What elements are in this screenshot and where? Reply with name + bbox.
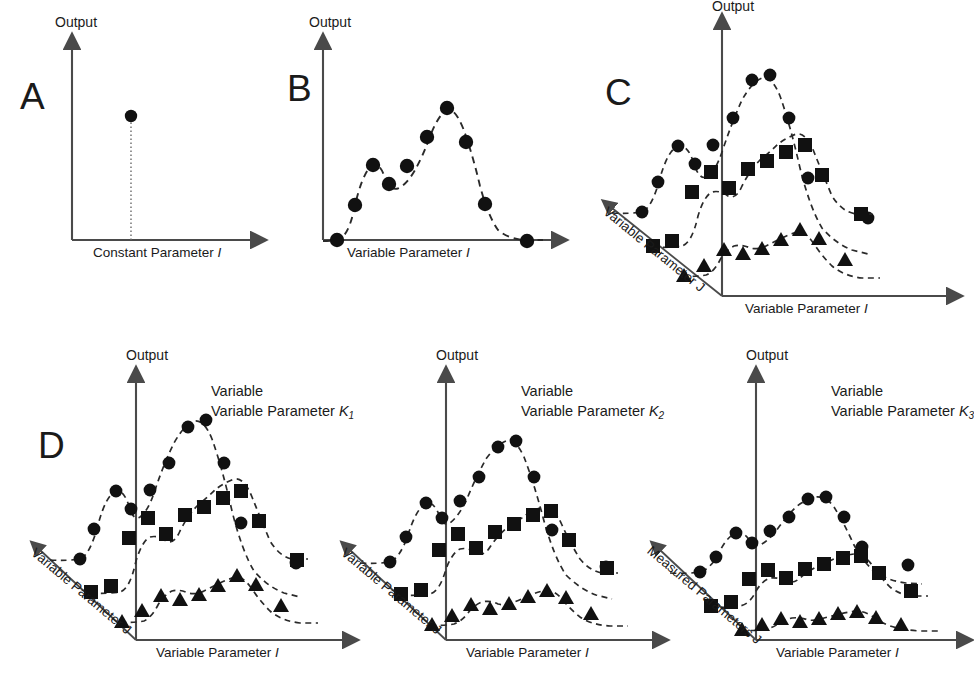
panel-letter-d: D bbox=[38, 427, 65, 464]
series-label-k1-line2: Variable Parameter K1 bbox=[211, 403, 354, 419]
y-axis-label: Output bbox=[436, 347, 478, 365]
panel-c: Output Variable Parameter I Variable Par… bbox=[600, 0, 974, 335]
x-axis-label: Variable Parameter I bbox=[466, 645, 589, 662]
series-markers-circle bbox=[636, 69, 875, 225]
panel-a: Output Constant Parameter I A bbox=[0, 0, 300, 330]
series-label-k2-text: Variable Parameter K bbox=[521, 403, 659, 419]
x-axis-label: Variable Parameter I bbox=[347, 245, 470, 262]
x-axis-label: Variable Parameter I bbox=[156, 645, 279, 662]
series-markers-square bbox=[394, 504, 614, 601]
series-line-circle bbox=[360, 441, 612, 599]
series-markers bbox=[330, 101, 534, 248]
series-markers-triangle bbox=[114, 568, 289, 628]
panel-d1: Output Variable Parameter I Variable Par… bbox=[28, 345, 358, 679]
series-label-k1: Variable Variable Parameter K1 bbox=[211, 382, 354, 421]
panel-d3: Output Variable Parameter I Measured Par… bbox=[648, 345, 974, 679]
series-label-k3-text: Variable Parameter K bbox=[831, 403, 969, 419]
series-label-k2-line1: Variable bbox=[521, 383, 573, 399]
series-markers-circle bbox=[74, 414, 303, 570]
y-axis-label: Output bbox=[126, 347, 168, 365]
y-axis-label: Output bbox=[712, 0, 754, 16]
series-label-k1-text: Variable Parameter K bbox=[211, 403, 349, 419]
series-markers-triangle bbox=[676, 222, 853, 282]
series-line-circle bbox=[612, 78, 868, 254]
data-point-circle bbox=[125, 110, 137, 122]
series-line bbox=[323, 110, 543, 241]
series-markers-square bbox=[704, 549, 918, 613]
series-label-k2-line2: Variable Parameter K2 bbox=[521, 403, 664, 419]
panel-a-plot bbox=[0, 0, 300, 330]
series-label-k1-line1: Variable bbox=[211, 383, 263, 399]
series-label-k3-line1: Variable bbox=[831, 383, 883, 399]
x-axis-label: Variable Parameter I bbox=[776, 645, 899, 662]
x-axis-label: Constant Parameter I bbox=[93, 245, 221, 262]
y-axis-label: Output bbox=[55, 14, 97, 32]
panel-b-plot bbox=[295, 0, 585, 330]
panel-c-plot bbox=[600, 0, 974, 335]
series-markers-circle bbox=[384, 435, 613, 574]
y-axis-label: Output bbox=[746, 347, 788, 365]
series-markers-square bbox=[646, 138, 868, 253]
series-line-circle bbox=[50, 421, 300, 597]
series-label-k3: Variable Variable Parameter K3 bbox=[831, 382, 974, 421]
series-label-k2: Variable Variable Parameter K2 bbox=[521, 382, 664, 421]
panel-letter-a: A bbox=[20, 78, 45, 115]
figure-canvas: Output Constant Parameter I A bbox=[0, 0, 974, 679]
series-markers-square bbox=[84, 484, 304, 599]
series-label-k3-line2: Variable Parameter K3 bbox=[831, 403, 974, 419]
series-markers-triangle bbox=[424, 583, 599, 631]
panel-letter-c: C bbox=[605, 74, 632, 111]
panel-letter-b: B bbox=[287, 70, 312, 107]
x-axis-label: Variable Parameter I bbox=[745, 301, 868, 318]
series-label-k3-sub: 3 bbox=[969, 410, 974, 421]
panel-b: Output Variable Parameter I B bbox=[295, 0, 585, 330]
panel-d2: Output Variable Parameter I Variable Par… bbox=[338, 345, 668, 679]
y-axis-label: Output bbox=[309, 14, 351, 32]
